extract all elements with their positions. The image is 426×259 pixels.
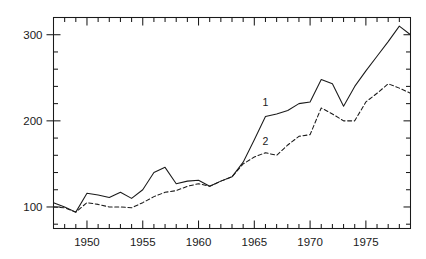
y-axis-tick-labels: 100200300: [23, 29, 42, 213]
series-lines: [54, 26, 411, 212]
series-annotation-2: 2: [263, 135, 269, 147]
y-axis-tick-label: 100: [23, 201, 42, 213]
y-axis-tick-label: 300: [23, 29, 42, 41]
x-axis-tick-label: 1965: [242, 236, 268, 248]
series-line-2: [54, 84, 411, 212]
x-axis-tick-label: 1975: [353, 236, 379, 248]
x-axis-tick-label: 1950: [74, 236, 100, 248]
y-axis-tick-label: 200: [23, 115, 42, 127]
x-axis-tick-label: 1955: [130, 236, 156, 248]
chart-container: 100200300 195019551960196519701975 12: [0, 0, 426, 259]
line-chart: 100200300 195019551960196519701975 12: [0, 0, 426, 259]
x-axis-tick-labels: 195019551960196519701975: [74, 236, 379, 248]
y-axis-ticks: [47, 18, 411, 225]
x-axis-tick-label: 1960: [186, 236, 212, 248]
x-axis-tick-label: 1970: [297, 236, 323, 248]
series-annotation-1: 1: [263, 96, 269, 108]
series-line-1: [54, 26, 411, 212]
